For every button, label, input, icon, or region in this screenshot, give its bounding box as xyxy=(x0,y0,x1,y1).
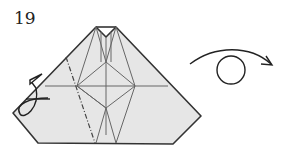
origami-diagram xyxy=(0,0,284,163)
turn-over-icon xyxy=(190,50,272,84)
